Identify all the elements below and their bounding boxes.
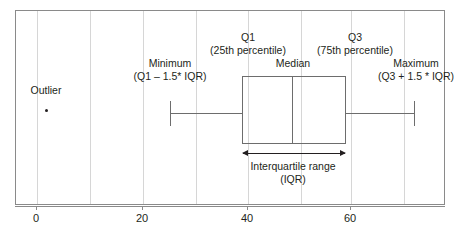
annotation-maximum-formula: (Q3 + 1.5 * IQR)	[378, 70, 454, 83]
x-axis-line	[15, 206, 445, 207]
tick-label-60: 60	[344, 212, 356, 224]
tick-label-0: 0	[33, 212, 39, 224]
annotation-outlier: Outlier	[31, 84, 62, 97]
gridline-10	[90, 11, 91, 204]
gridline-30	[196, 11, 197, 204]
gridline-20	[143, 11, 144, 204]
annotation-iqr-abbreviation: (IQR)	[250, 173, 335, 186]
annotation-outlier-label: Outlier	[31, 84, 62, 96]
box-plot-diagram: Outlier Minimum (Q1 – 1.5* IQR) Q1 (25th…	[0, 0, 467, 237]
gridline-0	[37, 11, 38, 204]
whisker-cap-minimum	[170, 101, 171, 126]
tick-label-40: 40	[241, 212, 253, 224]
tick-mark-60	[350, 206, 351, 210]
iqr-arrow-head-right	[340, 150, 346, 156]
annotation-q1: Q1 (25th percentile)	[210, 31, 286, 56]
outlier-point	[45, 109, 48, 112]
tick-mark-40	[247, 206, 248, 210]
annotation-minimum: Minimum (Q1 – 1.5* IQR)	[134, 57, 207, 82]
annotation-minimum-formula: (Q1 – 1.5* IQR)	[134, 70, 207, 83]
iqr-arrow-head-left	[242, 150, 248, 156]
annotation-iqr-label: Interquartile range	[250, 160, 335, 172]
gridline-70	[404, 11, 405, 204]
whisker-cap-maximum	[414, 101, 415, 126]
annotation-maximum-label: Maximum	[393, 57, 439, 69]
annotation-q3: Q3 (75th percentile)	[317, 31, 393, 56]
annotation-q1-label: Q1	[241, 31, 255, 43]
median-line	[292, 76, 293, 144]
annotation-minimum-label: Minimum	[149, 57, 192, 69]
interquartile-box	[242, 76, 346, 144]
whisker-line-left	[170, 113, 243, 114]
tick-mark-20	[142, 206, 143, 210]
annotation-q3-formula: (75th percentile)	[317, 44, 393, 57]
annotation-maximum: Maximum (Q3 + 1.5 * IQR)	[378, 57, 454, 82]
annotation-q1-formula: (25th percentile)	[210, 44, 286, 57]
whisker-line-right	[345, 113, 415, 114]
annotation-median-label: Median	[276, 57, 310, 69]
tick-mark-0	[36, 206, 37, 210]
iqr-arrow-line	[243, 153, 345, 154]
annotation-median: Median	[276, 57, 310, 70]
annotation-q3-label: Q3	[348, 31, 362, 43]
annotation-iqr: Interquartile range (IQR)	[250, 160, 335, 185]
tick-label-20: 20	[136, 212, 148, 224]
